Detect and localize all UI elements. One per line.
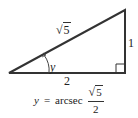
formula-equals: = <box>44 94 50 106</box>
fraction-denominator: 2 <box>93 102 99 115</box>
formula-func: arcsec <box>55 94 82 106</box>
right-angle-marker <box>116 64 125 73</box>
angle-arc <box>44 55 49 73</box>
triangle <box>9 10 125 73</box>
radicand: 5 <box>95 85 103 98</box>
fraction-numerator: √5 <box>88 85 104 102</box>
formula-fraction: √5 2 <box>88 85 104 115</box>
angle-label: y <box>50 61 55 73</box>
formula-lhs: y <box>34 94 39 106</box>
vertical-side-label: 1 <box>128 37 134 49</box>
radical-sign: √ <box>56 23 63 37</box>
hypotenuse-label: √5 <box>56 24 71 36</box>
radicand: 5 <box>63 22 71 37</box>
arcsec-formula: y = arcsec √5 2 <box>34 85 104 115</box>
